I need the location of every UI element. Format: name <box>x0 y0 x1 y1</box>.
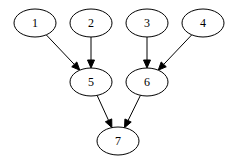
node-label: 5 <box>88 75 94 89</box>
arrowhead-icon <box>125 119 132 128</box>
arrowhead-icon <box>88 60 95 68</box>
node-label: 6 <box>144 75 150 89</box>
edge-line <box>97 95 108 120</box>
edge-1-to-5 <box>46 35 80 70</box>
arrowhead-icon <box>144 60 151 68</box>
edges-layer <box>46 35 192 128</box>
edge-line <box>164 35 192 65</box>
arrowhead-icon <box>105 119 112 128</box>
edge-5-to-7 <box>97 95 112 127</box>
node-7: 7 <box>97 127 139 155</box>
node-2: 2 <box>70 9 112 37</box>
edge-line <box>46 35 74 65</box>
node-1: 1 <box>14 9 56 37</box>
directed-graph: 1234567 <box>0 0 238 164</box>
node-6: 6 <box>126 68 168 96</box>
edge-line <box>128 95 140 120</box>
node-5: 5 <box>70 68 112 96</box>
edge-2-to-5 <box>88 37 95 68</box>
nodes-layer: 1234567 <box>14 9 224 155</box>
node-4: 4 <box>182 9 224 37</box>
node-label: 3 <box>144 16 150 30</box>
node-label: 1 <box>32 16 38 30</box>
node-label: 4 <box>200 16 206 30</box>
edge-3-to-6 <box>144 37 151 68</box>
node-label: 2 <box>88 16 94 30</box>
node-3: 3 <box>126 9 168 37</box>
edge-4-to-6 <box>158 35 192 70</box>
edge-6-to-7 <box>125 95 141 127</box>
node-label: 7 <box>115 134 121 148</box>
